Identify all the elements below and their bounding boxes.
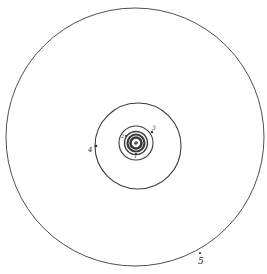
label-1: 1 xyxy=(134,153,137,159)
planet-marker-4 xyxy=(95,145,98,148)
planet-marker-5 xyxy=(199,252,201,254)
central-body xyxy=(133,141,138,146)
label-4: 4 xyxy=(87,146,92,154)
orbit-4 xyxy=(95,103,181,189)
planet-marker-3 xyxy=(151,131,153,133)
planet-marker-2 xyxy=(125,135,127,137)
label-5: 5 xyxy=(198,256,204,266)
label-2: 2 xyxy=(120,133,124,139)
label-3: 3 xyxy=(152,124,156,131)
orbit-diagram: 5 4 3 2 1 xyxy=(0,0,267,274)
